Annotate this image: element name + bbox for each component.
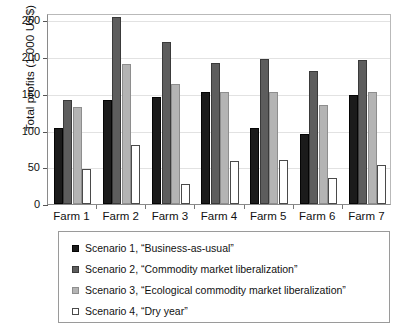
bar-group xyxy=(97,15,146,204)
bar-group xyxy=(195,15,244,204)
legend-label: Scenario 3, “Ecological commodity market… xyxy=(85,284,346,296)
chart-legend: Scenario 1, “Business-as-usual”Scenario … xyxy=(58,231,390,323)
bar xyxy=(63,100,72,204)
bar xyxy=(73,107,82,204)
bar-group xyxy=(294,15,343,204)
y-axis-tick-label: 250 xyxy=(0,15,40,26)
bar-group xyxy=(343,15,392,204)
bar-group xyxy=(48,15,97,204)
bar xyxy=(230,161,239,204)
bar xyxy=(171,84,180,204)
legend-label: Scenario 1, “Business-as-usual” xyxy=(85,242,234,254)
bar-group xyxy=(146,15,195,204)
y-axis-tick-label: 200 xyxy=(0,52,40,63)
y-axis-tick xyxy=(43,205,48,206)
bar xyxy=(201,92,210,204)
bar xyxy=(358,60,367,204)
bar xyxy=(319,105,328,204)
bar xyxy=(122,64,131,204)
legend-label: Scenario 2, “Commodity market liberaliza… xyxy=(85,263,297,275)
bar xyxy=(260,59,269,204)
bar xyxy=(152,97,161,204)
legend-item-scenario-2: Scenario 2, “Commodity market liberaliza… xyxy=(72,262,297,276)
bar xyxy=(162,42,171,204)
bar xyxy=(349,95,358,204)
legend-label: Scenario 4, “Dry year” xyxy=(85,305,188,317)
bar xyxy=(368,92,377,204)
bar xyxy=(112,17,121,204)
bar xyxy=(54,128,63,204)
bar xyxy=(82,169,91,204)
bar xyxy=(103,100,112,204)
bar xyxy=(250,128,259,204)
legend-item-scenario-3: Scenario 3, “Ecological commodity market… xyxy=(72,283,346,297)
legend-item-scenario-1: Scenario 1, “Business-as-usual” xyxy=(72,241,234,255)
bar-group xyxy=(245,15,294,204)
y-axis-tick-label: 0 xyxy=(0,199,40,210)
bar xyxy=(211,63,220,204)
y-axis-tick-label: 50 xyxy=(0,162,40,173)
legend-swatch-icon xyxy=(72,245,79,252)
bar xyxy=(328,178,337,204)
bar xyxy=(131,145,140,204)
bar xyxy=(300,134,309,204)
y-axis-tick-label: 100 xyxy=(0,126,40,137)
bar xyxy=(181,184,190,204)
plot-area xyxy=(47,14,391,205)
legend-swatch-icon xyxy=(72,266,79,273)
bar xyxy=(279,160,288,204)
legend-swatch-icon xyxy=(72,287,79,294)
bar xyxy=(309,71,318,204)
bar xyxy=(269,92,278,204)
legend-item-scenario-4: Scenario 4, “Dry year” xyxy=(72,304,188,318)
legend-swatch-icon xyxy=(72,308,79,315)
bar xyxy=(220,92,229,204)
x-axis-label-farm-7: Farm 7 xyxy=(336,209,396,223)
bar xyxy=(377,165,386,204)
bar-chart-figure: Total profits (1,000 US$) 05010015020025… xyxy=(0,0,399,334)
y-axis-tick-label: 150 xyxy=(0,89,40,100)
